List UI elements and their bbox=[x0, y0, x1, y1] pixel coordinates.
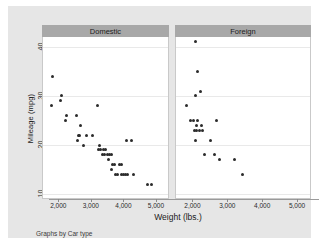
data-point bbox=[79, 124, 82, 127]
data-point bbox=[201, 129, 204, 132]
data-point bbox=[185, 104, 188, 107]
data-point bbox=[96, 104, 99, 107]
y-axis-title: Mileage (mpg) bbox=[26, 59, 35, 179]
x-tick-label: 5,000 bbox=[282, 202, 312, 209]
x-tick-label: 4,000 bbox=[247, 202, 277, 209]
data-point bbox=[50, 104, 53, 107]
data-point bbox=[194, 40, 197, 43]
data-point bbox=[76, 139, 79, 142]
data-point bbox=[192, 119, 195, 122]
plot-area-domestic bbox=[42, 37, 169, 199]
data-point bbox=[82, 144, 85, 147]
stata-scatter-figure: Mileage (mpg) 10203040 2,0003,0004,0005,… bbox=[0, 0, 319, 250]
gridline bbox=[176, 47, 310, 48]
data-point bbox=[196, 70, 199, 73]
graph-region: Mileage (mpg) 10203040 2,0003,0004,0005,… bbox=[8, 6, 311, 238]
data-point bbox=[116, 173, 119, 176]
data-point bbox=[146, 183, 149, 186]
data-point bbox=[113, 163, 116, 166]
x-tick-label: 3,000 bbox=[212, 202, 242, 209]
data-point bbox=[195, 124, 198, 127]
x-tick-label: 2,000 bbox=[177, 202, 207, 209]
data-point bbox=[65, 114, 68, 117]
data-point bbox=[150, 183, 153, 186]
data-point bbox=[215, 119, 218, 122]
data-point bbox=[110, 168, 113, 171]
panel-title-domestic: Domestic bbox=[42, 25, 169, 37]
data-point bbox=[110, 153, 113, 156]
data-point bbox=[75, 114, 78, 117]
data-point bbox=[60, 94, 63, 97]
data-point bbox=[200, 124, 203, 127]
data-point bbox=[218, 158, 221, 161]
x-axis-title: Weight (lbs.) bbox=[48, 212, 308, 222]
panel-domestic: Domestic bbox=[42, 25, 169, 199]
data-point bbox=[107, 158, 110, 161]
panel-foreign: Foreign bbox=[175, 25, 311, 199]
graph-caption: Graphs by Car type bbox=[36, 230, 92, 237]
x-tick-label: 5,000 bbox=[141, 202, 171, 209]
x-tick-label: 2,000 bbox=[43, 202, 73, 209]
data-point bbox=[85, 134, 88, 137]
gridline bbox=[43, 47, 168, 48]
data-point bbox=[104, 148, 107, 151]
data-point bbox=[78, 134, 81, 137]
data-point bbox=[196, 119, 199, 122]
data-point bbox=[233, 158, 236, 161]
data-point bbox=[203, 153, 206, 156]
data-point bbox=[125, 139, 128, 142]
gridline bbox=[176, 145, 310, 146]
data-point bbox=[130, 139, 133, 142]
data-point bbox=[91, 134, 94, 137]
data-point bbox=[213, 153, 216, 156]
data-point bbox=[194, 94, 197, 97]
x-axis-line bbox=[49, 199, 319, 200]
data-point bbox=[209, 139, 212, 142]
x-tick-label: 4,000 bbox=[108, 202, 138, 209]
plot-area-foreign bbox=[175, 37, 311, 199]
data-point bbox=[64, 119, 67, 122]
data-point bbox=[132, 173, 135, 176]
gridline bbox=[176, 194, 310, 195]
data-point bbox=[194, 139, 197, 142]
data-point bbox=[241, 173, 244, 176]
gridline bbox=[43, 194, 168, 195]
x-tick-label: 3,000 bbox=[76, 202, 106, 209]
gridline bbox=[43, 145, 168, 146]
data-point bbox=[126, 173, 129, 176]
panel-title-foreign: Foreign bbox=[175, 25, 311, 37]
data-point bbox=[199, 90, 202, 93]
data-point bbox=[120, 163, 123, 166]
data-point bbox=[59, 99, 62, 102]
data-point bbox=[51, 75, 54, 78]
